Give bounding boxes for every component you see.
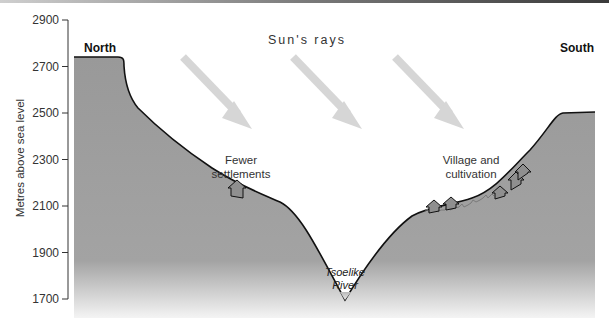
village-label-line1: Village and [443,154,500,166]
y-tick-label: 2300 [32,153,59,167]
y-tick-label: 2900 [32,13,59,27]
y-tick-label: 2500 [32,106,59,120]
y-axis-title: Metres above sea level [14,99,26,217]
sun-ray-arrow-icon [293,57,362,129]
village-label-line2: cultivation [445,168,496,180]
sun-ray-arrow-icon [183,57,252,129]
y-tick-label: 2100 [32,199,59,213]
sun-rays-label: Sun's rays [268,33,346,47]
river-label-line1: Tsoelike [325,266,365,278]
sun-ray-arrow-icon [395,57,464,129]
river-label-line2: River [332,279,359,291]
north-label: North [84,41,116,55]
y-tick-label: 2700 [32,60,59,74]
fewer-settlements-label-line1: Fewer [225,154,257,166]
y-tick-label: 1900 [32,246,59,260]
y-axis: 2900 2700 2500 2300 2100 1900 1700 Metre… [14,13,68,306]
south-label: South [560,41,594,55]
fewer-settlements-label-line2: settlements [212,168,271,180]
valley-cross-section-diagram: 2900 2700 2500 2300 2100 1900 1700 Metre… [0,0,609,323]
y-tick-label: 1700 [32,292,59,306]
sun-rays: Sun's rays [183,33,464,129]
